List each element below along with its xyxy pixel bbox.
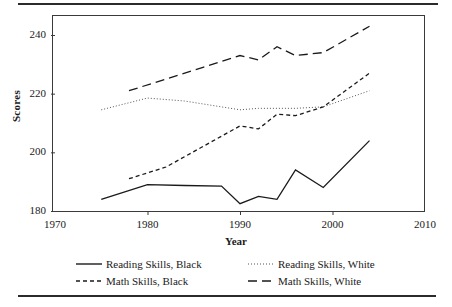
axes-frame xyxy=(53,16,425,212)
legend-swatch-dashed-long-icon xyxy=(248,276,274,286)
series-line-1 xyxy=(101,91,369,110)
y-tick-label: 200 xyxy=(12,145,46,157)
x-tick-label: 2000 xyxy=(313,218,353,230)
legend-swatch-solid-icon xyxy=(76,259,102,269)
data-series-group xyxy=(101,26,369,203)
legend-label: Math Skills, White xyxy=(278,275,361,288)
y-axis-title: Scores xyxy=(10,76,22,136)
figure-container: 180200220240 19701980199020002010 Scores… xyxy=(0,0,452,307)
y-tick-label: 240 xyxy=(12,28,46,40)
legend-swatch-dashed-short-icon xyxy=(76,276,102,286)
x-tick-label: 1990 xyxy=(220,218,260,230)
x-tick-label: 2010 xyxy=(405,218,445,230)
line-chart-plot xyxy=(0,0,452,307)
legend-swatch-dotted-icon xyxy=(248,259,274,269)
legend-label: Math Skills, Black xyxy=(106,275,188,288)
series-line-3 xyxy=(129,26,370,91)
legend-label: Reading Skills, Black xyxy=(106,258,202,271)
x-tick-label: 1970 xyxy=(35,218,75,230)
legend-item[interactable]: Reading Skills, White xyxy=(248,256,375,272)
legend-label: Reading Skills, White xyxy=(278,258,375,271)
x-tick-label: 1980 xyxy=(128,218,168,230)
axis-ticks xyxy=(51,36,333,216)
legend-item[interactable]: Math Skills, White xyxy=(248,273,361,289)
y-tick-label: 180 xyxy=(12,204,46,216)
series-line-2 xyxy=(129,73,370,179)
x-axis-title: Year xyxy=(196,235,276,247)
legend-item[interactable]: Math Skills, Black xyxy=(76,273,188,289)
legend-item[interactable]: Reading Skills, Black xyxy=(76,256,202,272)
series-line-0 xyxy=(101,141,369,204)
